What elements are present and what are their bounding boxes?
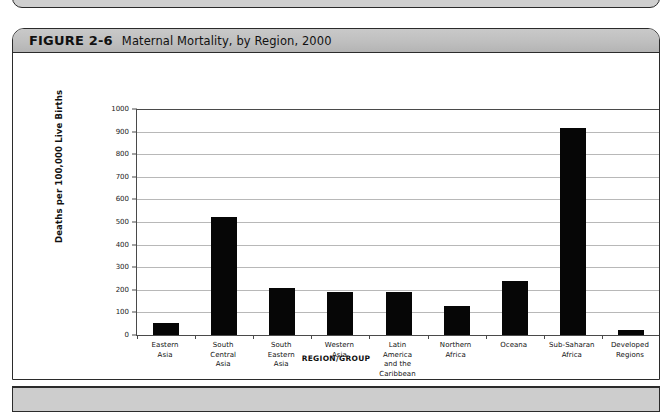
chart-area: Deaths per 100,000 Live Births 010020030… (13, 53, 659, 380)
bar (444, 306, 470, 335)
y-tick-label: 600 (116, 195, 129, 203)
y-tick-label: 400 (116, 241, 129, 249)
figure-number: FIGURE 2-6 (29, 33, 113, 48)
y-axis-ticks: 01002003004005006007008009001000 (97, 109, 137, 335)
bar (502, 281, 528, 335)
x-tick-label: Oceana (485, 341, 543, 351)
bar (386, 292, 412, 335)
x-axis-ticks (137, 335, 660, 340)
bar (211, 217, 237, 335)
y-tick-label: 0 (125, 331, 129, 339)
x-tick-mark (428, 335, 429, 339)
x-tick-mark (486, 335, 487, 339)
y-tick-label: 500 (116, 218, 129, 226)
y-tick-label: 200 (116, 286, 129, 294)
y-axis-title: Deaths per 100,000 Live Births (54, 93, 64, 243)
bar (153, 323, 179, 335)
page-top-fragment (12, 0, 660, 8)
x-tick-mark (195, 335, 196, 339)
x-tick-mark (659, 335, 660, 339)
x-tick-mark (311, 335, 312, 339)
x-tick-mark (369, 335, 370, 339)
y-tick-label: 1000 (111, 105, 129, 113)
bar (269, 288, 295, 335)
x-tick-mark (253, 335, 254, 339)
y-tick-label: 100 (116, 308, 129, 316)
y-tick-label: 900 (116, 128, 129, 136)
bar (560, 128, 586, 335)
plot-area: 01002003004005006007008009001000 (136, 109, 660, 336)
bar-series (137, 109, 660, 335)
x-axis-title: REGION/GROUP (13, 354, 659, 363)
bar (327, 292, 353, 335)
page-bottom-fragment (12, 386, 660, 412)
x-tick-mark (544, 335, 545, 339)
figure-header: FIGURE 2-6 Maternal Mortality, by Region… (13, 29, 659, 53)
x-tick-mark (602, 335, 603, 339)
figure-box: FIGURE 2-6 Maternal Mortality, by Region… (12, 28, 660, 380)
y-tick-label: 700 (116, 173, 129, 181)
y-tick-label: 800 (116, 150, 129, 158)
y-tick-label: 300 (116, 263, 129, 271)
x-tick-mark (137, 335, 138, 339)
figure-caption: Maternal Mortality, by Region, 2000 (122, 34, 332, 48)
